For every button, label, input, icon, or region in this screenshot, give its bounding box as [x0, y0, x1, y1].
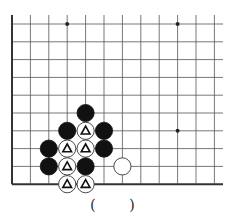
- black-stone-disc: [77, 158, 94, 175]
- black-stone-disc: [95, 140, 112, 157]
- answer-close-paren: ): [129, 198, 135, 213]
- white-stone-triangle-marked: [59, 176, 76, 193]
- answer-open-paren: (: [90, 198, 96, 213]
- star-point: [176, 129, 180, 133]
- white-stone-triangle-marked: [77, 122, 94, 139]
- star-point: [176, 22, 180, 26]
- white-stone-triangle-marked: [77, 140, 94, 157]
- white-stone-triangle-marked: [59, 158, 76, 175]
- black-stone-disc: [59, 122, 76, 139]
- white-stone: [114, 158, 131, 175]
- white-stone-triangle-marked: [59, 140, 76, 157]
- black-stone: [95, 140, 112, 157]
- black-stone: [40, 158, 57, 175]
- black-stone: [40, 140, 57, 157]
- star-point: [65, 22, 69, 26]
- black-stone-disc: [40, 158, 57, 175]
- black-stone-disc: [77, 104, 94, 121]
- black-stone: [77, 104, 94, 121]
- white-stone-disc: [114, 158, 131, 175]
- black-stone: [59, 122, 76, 139]
- black-stone-disc: [95, 122, 112, 139]
- black-stone-disc: [40, 140, 57, 157]
- white-stone-triangle-marked: [77, 176, 94, 193]
- black-stone: [77, 158, 94, 175]
- black-stone: [95, 122, 112, 139]
- go-board: [0, 0, 235, 221]
